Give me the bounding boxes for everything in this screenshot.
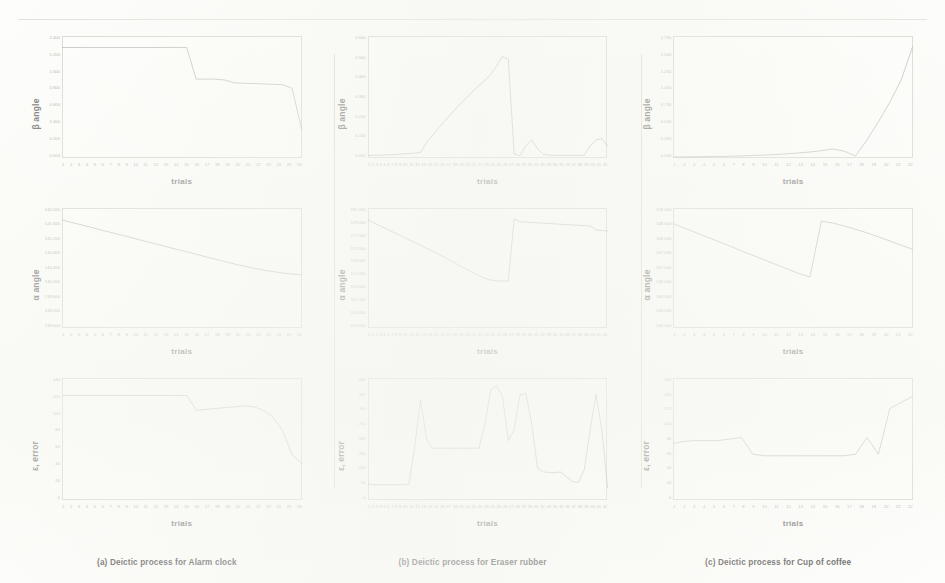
- x-tick-a-beta-14: 15: [184, 163, 189, 167]
- x-tick-c-error-6: 7: [732, 505, 734, 509]
- x-axis-label-c-alpha: trials: [673, 347, 913, 356]
- x-tick-a-beta-25: 26: [297, 163, 302, 167]
- x-tick-c-beta-21: 22: [908, 163, 913, 167]
- y-tick-b-error-7: 50: [361, 481, 366, 485]
- x-tick-b-alpha-20: 21: [471, 333, 476, 337]
- x-tick-c-error-14: 15: [823, 505, 828, 509]
- x-tick-b-alpha-36: 37: [571, 333, 576, 337]
- x-tick-a-alpha-19: 20: [235, 333, 240, 337]
- y-tick-labels-a-alpha: 142.000141.600141.200140.800140.400140.0…: [24, 208, 62, 328]
- y-tick-a-error-0: 140: [53, 378, 60, 382]
- x-tick-b-alpha-23: 24: [490, 333, 495, 337]
- x-tick-c-beta-9: 10: [762, 163, 767, 167]
- x-tick-c-beta-3: 4: [703, 163, 705, 167]
- x-tick-a-beta-9: 10: [133, 163, 138, 167]
- panel-a-alpha: α angle142.000141.600141.200140.800140.4…: [14, 198, 320, 368]
- x-tick-b-alpha-9: 10: [403, 333, 408, 337]
- x-tick-b-beta-32: 33: [546, 163, 551, 167]
- x-tick-a-beta-22: 23: [266, 163, 271, 167]
- x-tick-c-beta-7: 8: [742, 163, 744, 167]
- x-tick-b-alpha-37: 38: [578, 333, 583, 337]
- x-tick-b-error-23: 24: [490, 505, 495, 509]
- x-tick-b-error-11: 12: [415, 505, 420, 509]
- x-tick-b-error-33: 34: [553, 505, 558, 509]
- x-tick-a-alpha-18: 19: [225, 333, 230, 337]
- x-tick-b-error-9: 10: [403, 505, 408, 509]
- x-axis-label-c-beta: trials: [673, 177, 913, 186]
- x-tick-a-beta-18: 19: [225, 163, 230, 167]
- y-tick-c-error-1: 140: [664, 392, 671, 396]
- x-tick-a-beta-24: 25: [287, 163, 292, 167]
- x-tick-b-beta-40: 41: [596, 163, 601, 167]
- x-tick-a-beta-8: 9: [125, 163, 127, 167]
- plot-line-b-alpha: [368, 208, 608, 328]
- x-tick-a-alpha-25: 26: [297, 333, 302, 337]
- y-tick-b-alpha-0: 181.000: [351, 208, 366, 212]
- x-tick-b-alpha-2: 3: [376, 333, 378, 337]
- x-axis-label-b-beta: trials: [368, 177, 608, 186]
- x-tick-c-alpha-18: 19: [871, 333, 876, 337]
- x-tick-b-alpha-40: 41: [596, 333, 601, 337]
- x-tick-c-error-1: 2: [683, 505, 685, 509]
- x-tick-b-error-25: 26: [503, 505, 508, 509]
- x-tick-a-beta-4: 5: [94, 163, 96, 167]
- x-tick-b-error-28: 29: [521, 505, 526, 509]
- x-tick-b-beta-22: 23: [484, 163, 489, 167]
- x-tick-a-beta-15: 16: [194, 163, 199, 167]
- x-tick-a-error-14: 15: [184, 505, 189, 509]
- y-tick-c-beta-2: 1.250: [661, 69, 671, 73]
- x-tick-a-alpha-17: 18: [215, 333, 220, 337]
- x-tick-a-alpha-11: 12: [153, 333, 158, 337]
- x-tick-b-error-0: 1: [368, 505, 370, 509]
- panel-inner-c-error: ε, error16014012010080604020012345678910…: [629, 372, 925, 540]
- x-tick-b-beta-25: 26: [503, 163, 508, 167]
- panel-a-error: ε, error14012010080604020012345678910111…: [14, 368, 320, 540]
- x-tick-b-error-1: 2: [372, 505, 374, 509]
- x-tick-a-error-20: 21: [246, 505, 251, 509]
- x-tick-b-error-19: 20: [465, 505, 470, 509]
- x-tick-a-error-11: 12: [153, 505, 158, 509]
- x-tick-a-error-18: 19: [225, 505, 230, 509]
- y-tick-b-beta-1: 0.500: [355, 55, 365, 59]
- x-tick-b-alpha-12: 13: [421, 333, 426, 337]
- y-tick-b-alpha-2: 177.000: [351, 233, 366, 237]
- x-tick-c-beta-15: 16: [835, 163, 840, 167]
- x-tick-c-beta-13: 14: [811, 163, 816, 167]
- x-tick-b-error-30: 31: [534, 505, 539, 509]
- x-tick-a-alpha-8: 9: [125, 333, 127, 337]
- x-tick-c-beta-16: 17: [847, 163, 852, 167]
- series-path-a-alpha: [62, 220, 302, 275]
- x-tick-labels-a-error: 1234567891011121314151617181920212223242…: [62, 505, 302, 514]
- x-tick-a-alpha-20: 21: [246, 333, 251, 337]
- x-tick-c-alpha-16: 17: [847, 333, 852, 337]
- y-tick-c-alpha-6: 146.000: [656, 294, 671, 298]
- x-tick-b-alpha-24: 25: [496, 333, 501, 337]
- x-tick-b-alpha-19: 20: [465, 333, 470, 337]
- y-tick-labels-a-beta: 1.4001.2001.0000.8000.6000.4000.2000.000: [24, 36, 62, 158]
- y-tick-b-alpha-7: 167.000: [351, 298, 366, 302]
- x-tick-b-error-41: 42: [603, 505, 608, 509]
- x-tick-b-beta-23: 24: [490, 163, 495, 167]
- y-tick-c-error-2: 120: [664, 407, 671, 411]
- x-tick-b-alpha-29: 30: [528, 333, 533, 337]
- x-tick-b-error-24: 25: [496, 505, 501, 509]
- y-tick-b-beta-4: 0.200: [355, 114, 365, 118]
- y-tick-a-beta-3: 0.800: [50, 86, 60, 90]
- y-tick-a-error-4: 60: [55, 445, 60, 449]
- plot-line-b-beta: [368, 36, 608, 158]
- x-tick-b-beta-20: 21: [471, 163, 476, 167]
- x-tick-c-alpha-14: 15: [823, 333, 828, 337]
- y-tick-a-alpha-3: 140.800: [45, 251, 60, 255]
- panel-inner-b-error: ε, error40035030025020015010050012345678…: [324, 372, 620, 540]
- y-tick-a-beta-7: 0.000: [50, 153, 60, 157]
- panel-b-alpha: α angle181.000179.000177.000175.000173.0…: [320, 198, 626, 368]
- x-tick-c-alpha-5: 6: [723, 333, 725, 337]
- x-tick-c-beta-5: 6: [723, 163, 725, 167]
- x-tick-b-beta-19: 20: [465, 163, 470, 167]
- x-axis-label-b-alpha: trials: [368, 347, 608, 356]
- x-tick-a-error-17: 18: [215, 505, 220, 509]
- y-tick-c-alpha-3: 147.500: [656, 251, 671, 255]
- x-tick-c-error-3: 4: [703, 505, 705, 509]
- x-tick-b-beta-21: 22: [478, 163, 483, 167]
- x-tick-b-beta-31: 32: [540, 163, 545, 167]
